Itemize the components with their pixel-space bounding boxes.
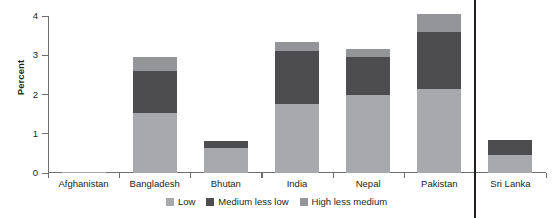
x-axis-label-sri-lanka: Sri Lanka	[455, 178, 553, 189]
bar-afghanistan	[62, 172, 106, 173]
bar-bangladesh	[133, 57, 177, 173]
bar-segment-low	[346, 95, 390, 174]
legend-label-1: Medium less low	[218, 196, 288, 207]
legend-label-0: Low	[178, 196, 195, 207]
legend-item-medium-less-low: Medium less low	[206, 196, 288, 207]
bar-segment-low	[62, 172, 106, 173]
bar-segment-high-less-medium	[275, 42, 319, 52]
bar-segment-low	[488, 155, 532, 173]
y-tick-1	[42, 133, 48, 134]
legend-item-low: Low	[166, 196, 195, 207]
stacked-bar-chart: Percent 01234 AfghanistanBangladeshBhuta…	[0, 0, 553, 218]
bar-segment-medium-less-low	[275, 51, 319, 104]
bar-segment-high-less-medium	[417, 14, 461, 32]
bar-segment-medium-less-low	[204, 141, 248, 148]
legend-item-high-less-medium: High less medium	[300, 196, 388, 207]
y-tick-label-3: 3	[20, 50, 38, 60]
y-tick-4	[42, 16, 48, 17]
bar-bhutan	[204, 141, 248, 173]
bar-segment-low	[133, 113, 177, 173]
y-tick-2	[42, 94, 48, 95]
y-tick-label-2: 2	[20, 90, 38, 100]
bar-segment-low	[417, 89, 461, 173]
region-separator-line	[474, 0, 476, 218]
legend-swatch-icon-1	[206, 198, 214, 206]
y-tick-label-1: 1	[20, 129, 38, 139]
y-axis-line	[48, 16, 49, 173]
bar-segment-medium-less-low	[488, 140, 532, 156]
bar-segment-low	[275, 104, 319, 173]
y-tick-label-0: 0	[20, 168, 38, 178]
bar-segment-high-less-medium	[346, 49, 390, 57]
bar-segment-medium-less-low	[133, 71, 177, 114]
legend-swatch-icon-2	[300, 198, 308, 206]
plot-area: 01234	[48, 16, 546, 173]
legend-label-2: High less medium	[312, 196, 388, 207]
bar-segment-medium-less-low	[346, 57, 390, 94]
y-tick-3	[42, 55, 48, 56]
legend-swatch-icon-0	[166, 198, 174, 206]
y-tick-label-4: 4	[20, 11, 38, 21]
bar-india	[275, 42, 319, 173]
bar-sri-lanka	[488, 140, 532, 173]
bar-nepal	[346, 49, 390, 173]
chart-legend: LowMedium less lowHigh less medium	[0, 196, 553, 207]
bar-segment-high-less-medium	[133, 57, 177, 70]
bar-pakistan	[417, 14, 461, 173]
bar-segment-medium-less-low	[417, 32, 461, 89]
bar-segment-low	[204, 148, 248, 174]
